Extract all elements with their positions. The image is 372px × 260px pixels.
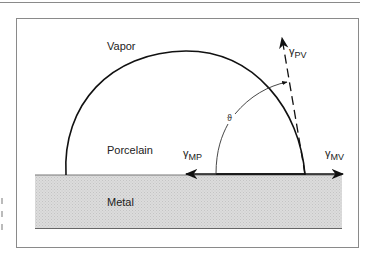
vapor-label: Vapor	[107, 40, 136, 52]
metal-substrate	[35, 175, 342, 229]
gamma-mv-label: γMV	[325, 147, 344, 162]
gamma-pv-label: γPV	[289, 45, 307, 60]
porcelain-label: Porcelain	[107, 144, 153, 156]
contact-angle-diagram	[0, 0, 372, 260]
gamma-mp-label: γMP	[183, 147, 202, 162]
metal-label: Metal	[107, 196, 134, 208]
theta-label: ϑ	[227, 113, 232, 123]
